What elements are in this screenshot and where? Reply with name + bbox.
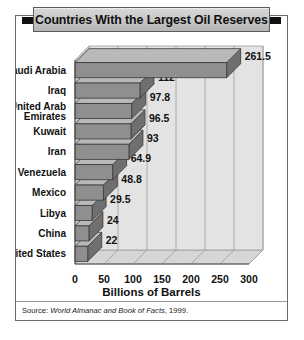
bar-front-face: [75, 226, 89, 241]
category-label: Iraq: [48, 85, 66, 96]
bar-front-face: [75, 63, 227, 78]
chart-title-banner: Countries With the Largest Oil Reserves: [22, 7, 281, 33]
bar-value-label: 93: [147, 132, 159, 144]
x-tick-label: 150: [153, 273, 171, 285]
category-label: Mexico: [32, 187, 66, 198]
bar-front-face: [75, 83, 140, 98]
category-label: Saudi Arabia: [16, 65, 66, 76]
bar-value-label: 96.5: [149, 112, 170, 124]
bar-value-label: 261.5: [245, 50, 271, 62]
x-tick-label: 300: [240, 273, 258, 285]
category-label: Iran: [48, 146, 66, 157]
bar-front-face: [75, 246, 88, 261]
source-suffix: , 1999.: [165, 306, 188, 315]
category-label: Libya: [40, 208, 67, 219]
category-label: Emirates: [24, 111, 67, 122]
chart-figure: Countries With the Largest Oil Reserves …: [0, 0, 304, 340]
x-tick-label: 50: [98, 273, 110, 285]
source-publication: World Almanac and Book of Facts: [50, 306, 165, 315]
bar-value-label: 29.5: [110, 193, 131, 205]
bar-front-face: [75, 144, 129, 159]
title-plaque: Countries With the Largest Oil Reserves: [33, 7, 270, 32]
x-axis-title: Billions of Barrels: [16, 286, 287, 298]
bar-front-face: [75, 165, 113, 180]
source-divider: [16, 301, 287, 302]
source-note: Source: World Almanac and Book of Facts,…: [22, 306, 284, 315]
bar-front-face: [75, 124, 131, 139]
source-prefix: Source:: [22, 306, 50, 315]
bar-value-label: 48.8: [121, 173, 142, 185]
bar-front-face: [75, 185, 103, 200]
x-tick-label: 100: [124, 273, 142, 285]
bar-value-label: 97.8: [150, 91, 171, 103]
bar-value-label: 22: [106, 234, 118, 246]
category-label: United States: [16, 248, 66, 259]
x-tick-label: 200: [182, 273, 200, 285]
category-label: China: [38, 228, 66, 239]
x-tick-label: 250: [211, 273, 229, 285]
bar-front-face: [75, 205, 92, 220]
plot-area: 05010015020025030022United States24China…: [16, 36, 287, 288]
bar-front-face: [75, 103, 132, 118]
bar-top-face: [75, 49, 241, 63]
bar-value-label: 24: [107, 214, 119, 226]
x-tick-label: 0: [72, 273, 78, 285]
chart-title: Countries With the Largest Oil Reserves: [35, 13, 268, 27]
bar-chart-svg: 05010015020025030022United States24China…: [16, 36, 287, 288]
category-label: Kuwait: [33, 126, 66, 137]
category-label: Venezuela: [18, 167, 67, 178]
